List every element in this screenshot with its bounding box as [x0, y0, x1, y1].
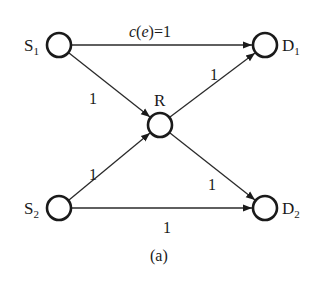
- network-diagram: S1 D1 R S2 D2 c(e)=1 1 1 1 1 1 (a): [0, 0, 323, 283]
- edge-label-s2-r: 1: [89, 166, 97, 183]
- edge-label-s1-r: 1: [89, 90, 97, 107]
- edge-label-r-d2: 1: [208, 176, 216, 193]
- edge-s1-r: [69, 53, 150, 117]
- edge-label-s2-d2: 1: [163, 219, 171, 236]
- edge-label-s1-d1: c(e)=1: [129, 23, 171, 41]
- node-s1: [47, 33, 71, 57]
- node-label-d1: D1: [282, 36, 300, 57]
- node-label-s1: S1: [24, 36, 39, 57]
- edge-s2-r: [69, 133, 150, 200]
- edge-r-d1: [170, 53, 255, 117]
- node-d2: [253, 196, 277, 220]
- node-s2: [47, 196, 71, 220]
- node-r: [148, 113, 172, 137]
- node-d1: [253, 33, 277, 57]
- edge-label-r-d1: 1: [210, 66, 218, 83]
- node-label-d2: D2: [282, 199, 300, 220]
- figure-caption: (a): [150, 247, 168, 265]
- node-label-s2: S2: [24, 199, 39, 220]
- node-label-r: R: [154, 91, 166, 110]
